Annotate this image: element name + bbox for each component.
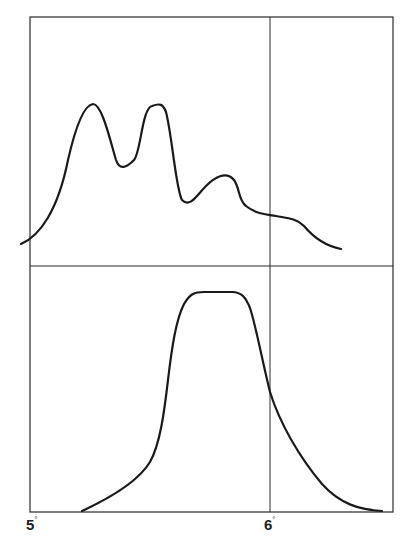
degree-symbol: ° xyxy=(272,515,275,524)
degree-symbol: ° xyxy=(34,515,37,524)
bottom-peak-curve xyxy=(82,292,382,511)
plot-frame xyxy=(30,17,393,512)
x-tick-5deg: 5° xyxy=(26,517,38,532)
chart-canvas xyxy=(0,0,415,550)
top-spectrum-curve xyxy=(21,104,341,249)
x-tick-6deg: 6° xyxy=(264,517,276,532)
